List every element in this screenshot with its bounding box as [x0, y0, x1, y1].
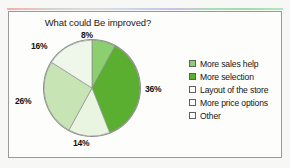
legend-swatch-icon [189, 112, 196, 119]
slice-label-more-selection: 36% [145, 84, 161, 94]
legend-swatch-icon [189, 60, 196, 67]
chart-legend: More sales help More selection Layout of… [189, 57, 289, 122]
legend-item-other[interactable]: Other [189, 109, 289, 122]
pie-area: 8% 36% 14% 26% 16% [23, 34, 173, 158]
legend-item-more-selection[interactable]: More selection [189, 70, 289, 83]
legend-item-label: More price options [200, 98, 268, 108]
slice-label-more-sales-help: 8% [81, 30, 93, 40]
pie-chart [44, 40, 140, 136]
legend-item-label: More sales help [200, 59, 258, 69]
slice-label-other: 16% [31, 41, 47, 51]
legend-item-layout-of-the-store[interactable]: Layout of the store [189, 83, 289, 96]
scan-artifact-strip [7, 8, 283, 10]
chart-frame: What could Be improved? 8% 36% 14% 26% 1… [8, 11, 282, 158]
chart-screenshot: What could Be improved? 8% 36% 14% 26% 1… [0, 0, 290, 168]
legend-swatch-icon [189, 99, 196, 106]
chart-title: What could Be improved? [9, 17, 187, 28]
legend-item-label: Other [200, 111, 221, 121]
legend-item-label: More selection [200, 72, 254, 82]
legend-item-label: Layout of the store [200, 85, 268, 95]
slice-label-more-price-options: 26% [15, 96, 31, 106]
legend-swatch-icon [189, 73, 196, 80]
slice-label-layout-of-the-store: 14% [73, 138, 89, 148]
pie-svg [44, 40, 140, 136]
legend-item-more-sales-help[interactable]: More sales help [189, 57, 289, 70]
legend-swatch-icon [189, 86, 196, 93]
legend-item-more-price-options[interactable]: More price options [189, 96, 289, 109]
